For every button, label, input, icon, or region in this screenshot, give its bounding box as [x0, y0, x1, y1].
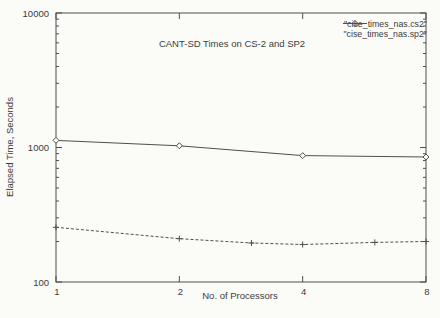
series-0-point-4	[300, 153, 306, 159]
x-tick-label-1: 1	[54, 286, 59, 297]
series-line-0	[56, 140, 426, 157]
x-axis-label: No. of Processors	[120, 290, 360, 301]
chart-figure: 1248100100010000 CANT-SD Times on CS-2 a…	[0, 0, 440, 318]
series-1-point-3	[248, 240, 254, 246]
y-axis-label: Elapsed Time, Seconds	[4, 77, 16, 217]
legend-sample-dashed-plus-icon	[343, 19, 367, 28]
series-1-point-4	[300, 242, 306, 248]
series-0-point-2	[176, 143, 182, 149]
series-0-point-8	[423, 154, 429, 160]
y-tick-label-10000: 10000	[23, 8, 49, 19]
series-line-1	[56, 227, 426, 244]
legend-entry-sp2: "cise_times_nas.sp2"	[343, 29, 427, 38]
series-1-point-6	[372, 239, 378, 245]
x-tick-label-8: 8	[424, 286, 429, 297]
legend: "cise_times_nas.cs2" "cise_times_nas.sp2…	[343, 19, 427, 38]
series-1-point-8	[423, 239, 429, 245]
series-1-point-1	[53, 224, 59, 230]
series-0-point-1	[53, 137, 59, 143]
chart-title: CANT-SD Times on CS-2 and SP2	[82, 38, 382, 49]
y-tick-label-100: 100	[33, 277, 49, 288]
legend-label-sp2: "cise_times_nas.sp2"	[343, 29, 427, 39]
axes-box	[56, 13, 426, 282]
series-1-point-2	[176, 236, 182, 242]
y-tick-label-1000: 1000	[28, 142, 49, 153]
